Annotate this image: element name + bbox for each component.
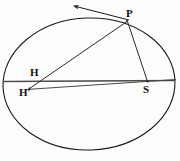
segment-p-to-s <box>128 22 148 82</box>
segment-p-to-h-prime <box>30 22 128 89</box>
ellipse-orbit-figure: P H H' S <box>0 0 180 161</box>
point-p-marker <box>126 20 128 22</box>
point-label-s: S <box>143 84 149 95</box>
point-label-h-prime: H' <box>19 87 31 98</box>
figure-canvas <box>0 0 180 161</box>
point-label-p: P <box>126 8 133 19</box>
point-label-h: H <box>30 67 39 78</box>
orbit-ellipse <box>1 15 178 153</box>
